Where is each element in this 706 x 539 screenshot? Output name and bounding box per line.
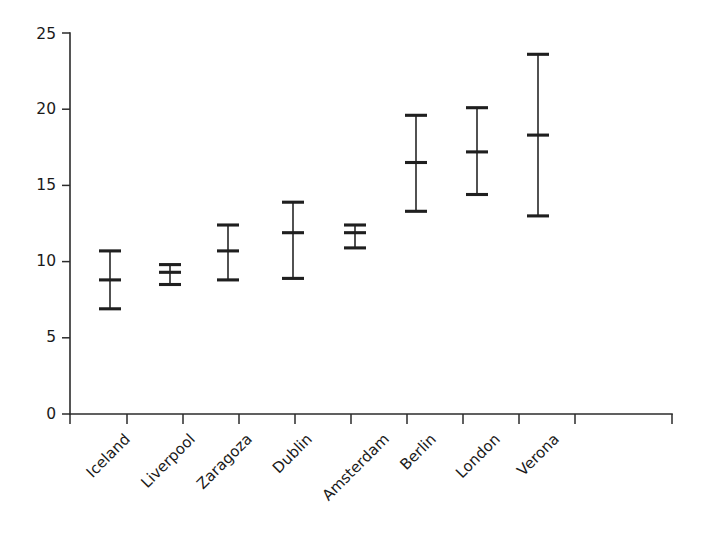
y-tick-label: 15 bbox=[36, 176, 56, 194]
chart-svg: 0 5 10 15 20 25 bbox=[0, 0, 706, 539]
y-tick-label: 10 bbox=[36, 252, 56, 270]
y-tick-label: 20 bbox=[36, 100, 56, 118]
error-bar-chart: 0 5 10 15 20 25 bbox=[0, 0, 706, 539]
y-tick-label: 0 bbox=[46, 405, 56, 423]
y-tick-label: 25 bbox=[36, 25, 56, 43]
y-tick-label: 5 bbox=[46, 328, 56, 346]
